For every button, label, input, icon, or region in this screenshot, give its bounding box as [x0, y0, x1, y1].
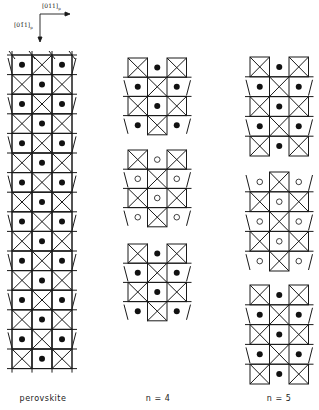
filled-atom-icon [59, 297, 65, 303]
filled-atom-icon [135, 308, 141, 314]
edge-tick [72, 97, 76, 113]
edge-tick [124, 305, 128, 320]
filled-atom-icon [59, 336, 65, 342]
filled-atom-icon [19, 297, 25, 303]
edge-tick [72, 332, 76, 348]
edge-tick [187, 266, 191, 281]
edge-tick [309, 80, 313, 96]
filled-atom-icon [257, 84, 263, 90]
open-atom-icon [296, 258, 302, 264]
filled-atom-icon [296, 84, 302, 90]
filled-atom-icon [154, 65, 160, 71]
filled-atom-icon [19, 336, 25, 342]
edge-tick [246, 119, 250, 135]
filled-atom-icon [135, 270, 141, 276]
vertical-axis-arrowhead-icon [38, 37, 42, 42]
block-2 [245, 285, 314, 384]
filled-atom-icon [276, 104, 282, 110]
filled-atom-icon [174, 308, 180, 314]
block-0 [7, 51, 77, 373]
open-atom-icon [174, 176, 180, 182]
open-atom-icon [135, 214, 141, 220]
filled-atom-icon [19, 140, 25, 146]
diagram-canvas: [011]p [01̄1]p perovskite n = 4 n = 5 [0, 0, 319, 410]
filled-atom-icon [39, 121, 45, 127]
edge-tick [246, 308, 250, 324]
filled-atom-icon [39, 317, 45, 323]
open-atom-icon [257, 258, 263, 264]
filled-atom-icon [59, 219, 65, 225]
edge-tick [187, 80, 191, 95]
edge-tick [72, 215, 76, 231]
filled-atom-icon [174, 270, 180, 276]
edge-tick [187, 305, 191, 320]
filled-atom-icon [296, 312, 302, 318]
filled-atom-icon [59, 179, 65, 185]
edge-tick [8, 136, 12, 152]
filled-atom-icon [276, 371, 282, 377]
panel-1 [123, 58, 192, 321]
perovskite-label: perovskite [10, 394, 76, 403]
filled-atom-icon [59, 258, 65, 264]
n5-label: n = 5 [251, 394, 307, 403]
open-atom-icon [257, 219, 263, 225]
block-0 [123, 58, 192, 135]
panels-layer [7, 51, 314, 384]
filled-atom-icon [296, 123, 302, 129]
open-atom-icon [276, 239, 282, 245]
block-0 [245, 57, 314, 156]
edge-tick [309, 215, 313, 231]
edge-tick [246, 254, 250, 270]
filled-atom-icon [19, 219, 25, 225]
edge-tick [124, 266, 128, 281]
edge-tick [8, 97, 12, 113]
panel-0 [7, 51, 77, 373]
edge-tick [72, 58, 76, 74]
panel-2 [245, 57, 314, 384]
edge-tick [309, 175, 313, 191]
filled-atom-icon [154, 289, 160, 295]
edge-tick [72, 293, 76, 309]
edge-tick [309, 254, 313, 270]
filled-atom-icon [39, 356, 45, 362]
edge-tick [246, 175, 250, 191]
filled-atom-icon [135, 84, 141, 90]
edge-tick [246, 215, 250, 231]
filled-atom-icon [19, 101, 25, 107]
horizontal-axis-label-sub: p [58, 6, 61, 11]
edge-tick [8, 254, 12, 270]
filled-atom-icon [59, 101, 65, 107]
open-atom-icon [154, 157, 160, 163]
filled-atom-icon [276, 332, 282, 338]
edge-tick [187, 172, 191, 187]
edge-tick [309, 347, 313, 363]
edge-tick [246, 80, 250, 96]
edge-tick [8, 215, 12, 231]
edge-tick [309, 308, 313, 324]
edge-tick [309, 119, 313, 135]
filled-atom-icon [257, 312, 263, 318]
axis-indicator [38, 12, 70, 42]
block-2 [123, 244, 192, 321]
open-atom-icon [154, 195, 160, 201]
open-atom-icon [296, 179, 302, 185]
edge-tick [72, 176, 76, 192]
filled-atom-icon [39, 199, 45, 205]
edge-tick [187, 211, 191, 226]
filled-atom-icon [39, 81, 45, 87]
filled-atom-icon [19, 62, 25, 68]
vertical-axis-label-sub: p [30, 25, 33, 30]
horizontal-axis-label-main: [011] [42, 2, 58, 9]
edge-tick [124, 119, 128, 134]
filled-atom-icon [174, 84, 180, 90]
horizontal-axis-label: [011]p [42, 2, 61, 11]
open-atom-icon [174, 214, 180, 220]
filled-atom-icon [59, 140, 65, 146]
filled-atom-icon [19, 179, 25, 185]
edge-tick [246, 347, 250, 363]
edge-tick [124, 172, 128, 187]
filled-atom-icon [276, 64, 282, 70]
vertical-axis-label: [01̄1]p [14, 21, 33, 30]
open-atom-icon [135, 176, 141, 182]
edge-tick [187, 119, 191, 134]
